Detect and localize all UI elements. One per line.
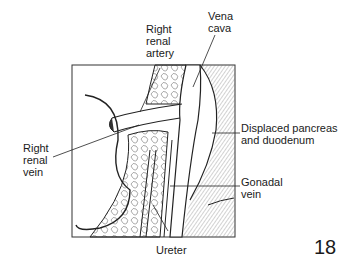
label-line: Gonadal: [241, 176, 283, 188]
label-line: renal: [146, 35, 174, 47]
label-right-renal-vein: Right renal vein: [23, 142, 49, 178]
label-vena-cava: Vena cava: [208, 10, 233, 34]
leader-right-renal-vein: [53, 125, 139, 157]
label-line: Right: [146, 23, 174, 35]
label-line: renal: [23, 154, 49, 166]
label-right-renal-artery: Right renal artery: [146, 23, 174, 59]
label-line: and duodenum: [241, 134, 338, 146]
page-number: 18: [314, 236, 336, 259]
label-line: Right: [23, 142, 49, 154]
label-line: Displaced pancreas: [241, 122, 338, 134]
label-line: vein: [23, 166, 49, 178]
label-line: cava: [208, 22, 233, 34]
label-line: Vena: [208, 10, 233, 22]
label-ureter: Ureter: [156, 244, 187, 256]
label-line: vein: [241, 188, 283, 200]
label-line: artery: [146, 47, 174, 59]
label-line: Ureter: [156, 244, 187, 256]
label-displaced-pancreas: Displaced pancreas and duodenum: [241, 122, 338, 146]
label-gonadal-vein: Gonadal vein: [241, 176, 283, 200]
